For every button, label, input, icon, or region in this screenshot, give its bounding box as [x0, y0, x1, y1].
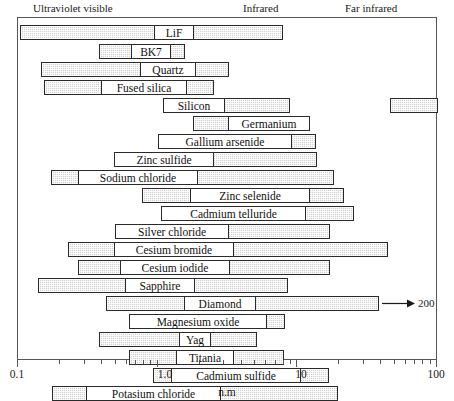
region-label-2: Far infrared	[345, 2, 397, 14]
bar-row: Cesium bromide	[18, 242, 436, 257]
axis-tick-minor	[265, 360, 266, 364]
bar-label-lif: LiF	[154, 25, 194, 40]
axis-tick-label-0: 0.1	[3, 368, 31, 381]
bar-row: Cadmium telluride	[18, 206, 436, 221]
x-axis-ticks	[17, 360, 437, 367]
axis-tick-minor	[199, 360, 200, 364]
axis-tick-minor	[363, 360, 364, 364]
axis-tick-label-2: 10	[287, 368, 315, 381]
axis-tick-minor	[414, 360, 415, 364]
bar-row: Fused silica	[18, 80, 436, 95]
bar-row: Sapphire	[18, 278, 436, 293]
axis-tick-major	[17, 360, 18, 367]
axis-tick-minor	[405, 360, 406, 364]
bar-label-bk7: BK7	[131, 44, 171, 59]
axis-tick-major	[157, 360, 158, 367]
axis-tick-minor	[394, 360, 395, 364]
bar-row: Diamond200	[18, 296, 436, 311]
axis-tick-major	[296, 360, 297, 367]
axis-tick-minor	[380, 360, 381, 364]
bar-row: Magnesium oxide	[18, 314, 436, 329]
plot-frame: LiFBK7QuartzFused silicaSiliconGermanium…	[17, 17, 437, 360]
axis-tick-minor	[338, 360, 339, 364]
x-axis-title: n.m	[0, 386, 454, 399]
bar-segment	[390, 98, 438, 113]
bar-label-germanium: Germanium	[228, 116, 310, 131]
axis-tick-label-3: 100	[422, 368, 450, 381]
bar-row: LiF	[18, 25, 436, 40]
bar-row: Zinc sulfide	[18, 152, 436, 167]
axis-tick-minor	[150, 360, 151, 364]
bar-label-sapphire: Sapphire	[125, 278, 195, 293]
bar-row: Gallium arsenide	[18, 134, 436, 149]
axis-tick-minor	[241, 360, 242, 364]
bar-label-quartz: Quartz	[140, 62, 196, 77]
axis-tick-minor	[59, 360, 60, 364]
bar-label-cesium-bromide: Cesium bromide	[114, 242, 234, 257]
bar-label-magnesium-oxide: Magnesium oxide	[129, 314, 267, 329]
axis-tick-major	[436, 360, 437, 367]
axis-tick-minor	[135, 360, 136, 364]
bar-label-zinc-selenide: Zinc selenide	[190, 188, 310, 203]
bar-row: Cesium iodide	[18, 260, 436, 275]
axis-tick-minor	[115, 360, 116, 364]
axis-tick-minor	[275, 360, 276, 364]
bar-row: Germanium	[18, 116, 436, 131]
axis-tick-minor	[254, 360, 255, 364]
axis-tick-minor	[422, 360, 423, 364]
optical-materials-transmission-chart: Ultraviolet visibleInfraredFar infrared …	[0, 0, 454, 401]
bar-label-silver-chloride: Silver chloride	[115, 224, 229, 239]
bar-label-sodium-chloride: Sodium chloride	[78, 170, 198, 185]
bar-segment	[41, 62, 229, 77]
bar-segment	[99, 332, 257, 347]
bar-row: BK7	[18, 44, 436, 59]
bar-row: Silver chloride	[18, 224, 436, 239]
bar-row: Sodium chloride	[18, 170, 436, 185]
axis-tick-minor	[84, 360, 85, 364]
axis-tick-label-1: 1.0	[151, 368, 179, 381]
bar-label-gallium-arsenide: Gallium arsenide	[158, 134, 292, 149]
axis-tick-minor	[101, 360, 102, 364]
axis-tick-minor	[126, 360, 127, 364]
bar-label-cesium-iodide: Cesium iodide	[120, 260, 230, 275]
axis-tick-minor	[283, 360, 284, 364]
bar-label-diamond: Diamond	[184, 296, 256, 311]
bar-row: Silicon	[18, 98, 436, 113]
bar-label-fused-silica: Fused silica	[101, 80, 187, 95]
axis-tick-minor	[143, 360, 144, 364]
bar-label-zinc-sulfide: Zinc sulfide	[114, 152, 214, 167]
diamond-range-value: 200	[418, 296, 435, 311]
bar-label-silicon: Silicon	[163, 98, 225, 113]
axis-tick-minor	[430, 360, 431, 364]
bar-label-yag: Yag	[179, 332, 211, 347]
bar-row: Cadmium sulfide	[18, 368, 436, 383]
region-label-0: Ultraviolet visible	[33, 2, 113, 14]
bar-label-cadmium-telluride: Cadmium telluride	[161, 206, 306, 221]
axis-tick-minor	[290, 360, 291, 364]
bar-segment	[20, 25, 283, 40]
bar-label-cadmium-sulfide: Cadmium sulfide	[171, 368, 301, 383]
bar-row: Yag	[18, 332, 436, 347]
region-label-1: Infrared	[243, 2, 278, 14]
axis-tick-minor	[223, 360, 224, 364]
bar-row: Quartz	[18, 62, 436, 77]
bar-row: Zinc selenide	[18, 188, 436, 203]
diamond-extends-arrow-icon	[382, 296, 415, 311]
